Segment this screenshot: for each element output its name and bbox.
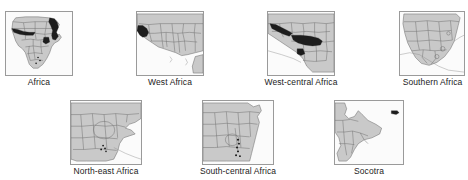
map-panel-figure: Africa (0, 0, 468, 180)
panel-caption-west-africa: West Africa (148, 77, 192, 87)
map-image-africa (5, 11, 73, 76)
panel-caption-west-central-africa: West-central Africa (264, 77, 337, 87)
map-panel-north-east-africa[interactable]: North-east Africa (70, 100, 142, 176)
map-image-west-central-africa (267, 11, 335, 76)
map-image-southern-africa (399, 11, 465, 76)
map-panel-west-africa[interactable]: West Africa (136, 11, 204, 87)
panel-caption-south-central-africa: South-central Africa (200, 166, 276, 176)
map-panel-west-central-africa[interactable]: West-central Africa (267, 11, 335, 87)
map-image-north-east-africa (70, 100, 142, 165)
map-image-south-central-africa (202, 100, 274, 165)
map-image-west-africa (136, 11, 204, 76)
panel-caption-socotra: Socotra (354, 166, 384, 176)
map-panel-socotra[interactable]: Socotra (334, 100, 404, 176)
panel-caption-north-east-africa: North-east Africa (73, 166, 138, 176)
map-image-socotra (334, 100, 404, 165)
map-panel-africa[interactable]: Africa (5, 11, 73, 87)
panel-caption-southern-africa: Southern Africa (403, 77, 463, 87)
map-panel-southern-africa[interactable]: Southern Africa (399, 11, 466, 87)
map-panel-south-central-africa[interactable]: South-central Africa (202, 100, 274, 176)
panel-caption-africa: Africa (28, 77, 50, 87)
